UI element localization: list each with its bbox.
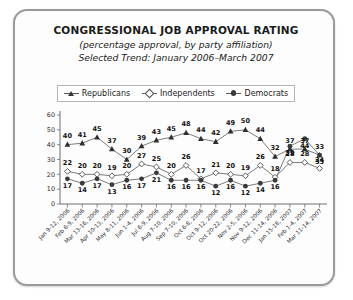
data-point-diamond	[317, 166, 323, 172]
data-point-circle	[154, 170, 159, 175]
data-point-value-label: 19	[241, 164, 251, 172]
data-point-value-label: 45	[92, 125, 102, 133]
data-point-value-label: 17	[137, 182, 147, 190]
data-point-value-label: 17	[92, 182, 102, 190]
data-point-circle	[169, 178, 174, 183]
data-point-circle	[213, 184, 218, 189]
data-point-circle	[199, 178, 204, 183]
data-point-value-label: 18	[270, 165, 280, 173]
data-point-value-label: 16	[270, 183, 280, 191]
data-point-diamond	[94, 171, 100, 177]
data-point-diamond	[168, 171, 174, 177]
chart-svg: 0102030405060Jan 9-12, 2006Feb 6-9, 2006…	[15, 11, 337, 288]
data-point-circle	[80, 181, 85, 186]
data-point-value-label: 27	[137, 152, 147, 160]
data-point-value-label: 14	[78, 186, 88, 194]
data-point-value-label: 40	[63, 132, 73, 140]
data-point-value-label: 43	[152, 128, 162, 136]
data-point-value-label: 20	[167, 162, 177, 170]
data-point-circle	[228, 178, 233, 183]
chart-card: CONGRESSIONAL JOB APPROVAL RATING (perce…	[13, 9, 335, 286]
data-point-diamond	[109, 173, 115, 179]
y-axis-tick-label: 60	[47, 111, 55, 119]
data-point-value-label: 44	[300, 142, 310, 150]
data-point-diamond	[213, 170, 219, 176]
data-point-value-label: 20	[226, 162, 236, 170]
data-point-circle	[110, 182, 115, 187]
y-axis-tick-label: 20	[47, 171, 55, 179]
data-point-diamond	[124, 171, 130, 177]
data-point-value-label: 16	[226, 183, 236, 191]
data-point-value-label: 48	[181, 120, 191, 128]
data-point-value-label: 37	[107, 137, 117, 145]
data-point-value-label: 32	[270, 144, 280, 152]
data-point-value-label: 14	[256, 186, 266, 194]
data-point-value-label: 20	[92, 162, 102, 170]
data-point-value-label: 16	[167, 183, 177, 191]
data-point-circle	[139, 176, 144, 181]
line-chart-plot: 0102030405060Jan 9-12, 2006Feb 6-9, 2006…	[15, 11, 337, 288]
data-point-value-label: 28	[300, 150, 310, 158]
data-point-value-label: 33	[315, 158, 325, 166]
data-point-circle	[124, 178, 129, 183]
data-point-value-label: 26	[181, 153, 191, 161]
data-point-circle	[65, 176, 70, 181]
data-point-diamond	[139, 161, 145, 167]
y-axis-tick-label: 40	[47, 141, 55, 149]
data-point-triangle	[257, 136, 263, 141]
data-point-diamond	[302, 160, 308, 166]
data-point-value-label: 17	[63, 182, 73, 190]
y-axis-tick-label: 30	[47, 156, 55, 164]
data-point-value-label: 20	[122, 162, 132, 170]
data-point-value-label: 30	[122, 147, 132, 155]
data-point-value-label: 16	[122, 183, 132, 191]
data-point-circle	[95, 176, 100, 181]
data-point-triangle	[109, 146, 115, 151]
data-point-value-label: 39	[137, 134, 147, 142]
data-point-value-label: 21	[211, 161, 221, 169]
data-point-value-label: 20	[78, 162, 88, 170]
data-point-value-label: 16	[181, 183, 191, 191]
data-point-value-label: 26	[256, 153, 266, 161]
series-line-republicans	[67, 130, 319, 160]
data-point-value-label: 12	[241, 189, 251, 197]
y-axis-tick-label: 50	[47, 126, 55, 134]
data-point-value-label: 19	[107, 164, 117, 172]
data-point-circle	[273, 178, 278, 183]
data-point-value-label: 37	[285, 137, 295, 145]
data-point-diamond	[243, 173, 249, 179]
data-point-value-label: 21	[152, 176, 162, 184]
data-point-value-label: 33	[315, 143, 325, 151]
y-axis-tick-label: 10	[47, 185, 55, 193]
data-point-value-label: 39	[285, 149, 295, 157]
data-point-value-label: 41	[78, 131, 88, 139]
y-axis-tick-label: 0	[51, 200, 55, 208]
data-point-diamond	[154, 164, 160, 170]
data-point-value-label: 44	[196, 126, 206, 134]
data-point-value-label: 16	[196, 183, 206, 191]
data-point-value-label: 50	[241, 117, 251, 125]
data-point-circle	[243, 184, 248, 189]
data-point-circle	[184, 178, 189, 183]
series-line-democrats	[67, 139, 319, 186]
data-point-diamond	[228, 171, 234, 177]
data-point-diamond	[65, 168, 71, 174]
data-point-value-label: 17	[196, 167, 206, 175]
data-point-value-label: 42	[211, 129, 221, 137]
data-point-value-label: 45	[167, 125, 177, 133]
data-point-triangle	[94, 134, 100, 139]
data-point-value-label: 22	[63, 159, 73, 167]
data-point-circle	[258, 181, 263, 186]
data-point-triangle	[183, 130, 189, 135]
data-point-triangle	[243, 127, 249, 132]
data-point-value-label: 13	[107, 188, 117, 196]
data-point-value-label: 12	[211, 189, 221, 197]
data-point-value-label: 49	[226, 119, 236, 127]
data-point-diamond	[79, 171, 85, 177]
data-point-value-label: 44	[256, 126, 266, 134]
data-point-value-label: 25	[152, 155, 162, 163]
